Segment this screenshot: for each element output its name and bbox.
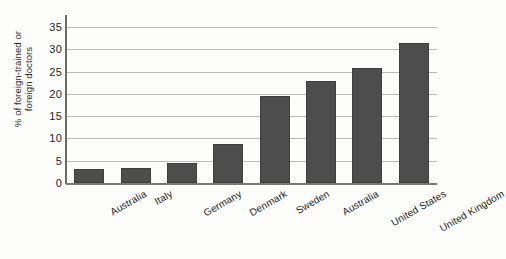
y-axis-tick-label: 30 (36, 43, 62, 55)
x-axis-line (66, 183, 437, 185)
y-axis-tick-label: 5 (36, 155, 62, 167)
bar (399, 43, 429, 183)
bar (167, 163, 197, 183)
x-axis-tick-label: Australia (340, 188, 380, 217)
bar (213, 144, 243, 183)
x-axis-tick-label: Denmark (248, 188, 289, 218)
y-axis-tick-label: 0 (36, 177, 62, 189)
y-axis-line (65, 15, 67, 184)
y-axis-tick-label: 15 (36, 110, 62, 122)
x-axis-tick-label: Sweden (294, 188, 331, 216)
bar (306, 81, 336, 183)
y-axis-tick-label: 20 (36, 88, 62, 100)
y-axis-tick-group: 05101520253035 (30, 0, 62, 259)
bar (352, 68, 382, 183)
y-axis-tick-label: 35 (36, 21, 62, 33)
y-axis-tick-label: 25 (36, 66, 62, 78)
y-axis-title-line-1: % of foreign-trained or (12, 31, 24, 127)
x-axis-tick-label: Germany (202, 188, 244, 218)
bar (74, 169, 104, 183)
x-axis-tick-label: Italy (152, 188, 174, 207)
bar (260, 96, 290, 183)
bar (121, 168, 151, 183)
plot-area (66, 27, 437, 183)
x-axis-tick-label: Australia (109, 188, 149, 217)
gridline (66, 49, 437, 50)
y-axis-tick-label: 10 (36, 132, 62, 144)
gridline (66, 27, 437, 28)
x-axis-tick-label: United Kingdom (438, 188, 506, 234)
